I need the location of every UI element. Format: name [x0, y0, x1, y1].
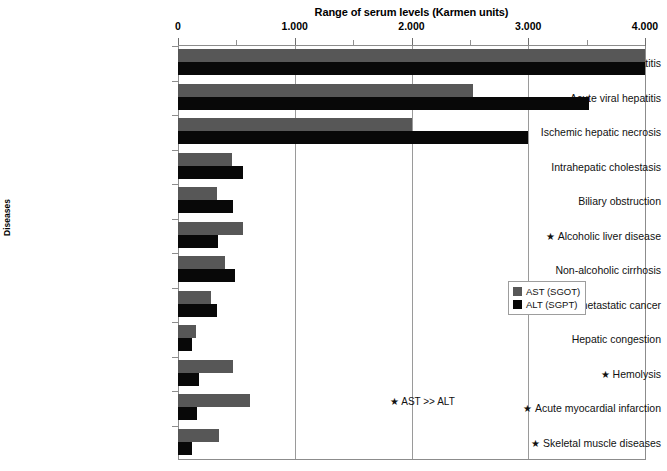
category-label-text: Alcoholic liver disease: [558, 230, 661, 242]
category-label-9: ★ Hemolysis: [491, 368, 667, 380]
alt-swatch-icon: [513, 300, 522, 309]
category-label-text: Acute myocardial infarction: [535, 402, 661, 414]
x-tick-label-3000: 3.000: [515, 20, 541, 32]
bar-ast-5: [178, 222, 243, 235]
category-label-text: Non-alcoholic cirrhosis: [555, 264, 661, 276]
ast-swatch-icon: [513, 287, 522, 296]
bar-ast-0: [178, 49, 645, 62]
bar-alt-10: [178, 407, 197, 420]
legend-label-ast: AST (SGOT): [526, 286, 580, 297]
category-label-8: Hepatic congestion: [491, 333, 667, 345]
bar-ast-9: [178, 360, 233, 373]
x-tick-label-0: 0: [175, 20, 181, 32]
bar-alt-1: [178, 97, 589, 110]
category-label-text: Ischemic hepatic necrosis: [541, 126, 661, 138]
row-tick-0: [172, 46, 178, 47]
x-tick-4000: [645, 38, 646, 46]
x-tick-label-1000: 1.000: [282, 20, 308, 32]
bar-ast-7: [178, 291, 211, 304]
row-tick-7: [172, 288, 178, 289]
star-icon: ★: [390, 396, 399, 407]
row-tick-6: [172, 253, 178, 254]
bar-ast-2: [178, 118, 412, 131]
category-label-6: Non-alcoholic cirrhosis: [491, 264, 667, 276]
bar-ast-1: [178, 84, 473, 97]
star-icon: ★: [531, 438, 543, 449]
row-tick-2: [172, 115, 178, 116]
bar-alt-7: [178, 304, 217, 317]
x-tick-label-2000: 2.000: [398, 20, 424, 32]
category-label-4: Biliary obstruction: [491, 195, 667, 207]
row-tick-11: [172, 426, 178, 427]
category-label-text: Skeletal muscle diseases: [543, 437, 661, 449]
annotation-ast-gt-alt: ★ AST >> ALT: [390, 396, 455, 407]
category-label-text: Biliary obstruction: [578, 195, 661, 207]
annotation-text: AST >> ALT: [401, 396, 455, 407]
bar-ast-11: [178, 429, 219, 442]
category-label-5: ★ Alcoholic liver disease: [491, 230, 667, 242]
bar-alt-4: [178, 200, 233, 213]
row-tick-5: [172, 219, 178, 220]
bar-ast-4: [178, 187, 217, 200]
bar-chart: Range of serum levels (Karmen units) Dis…: [0, 0, 667, 471]
category-label-11: ★ Skeletal muscle diseases: [491, 437, 667, 449]
category-label-text: Intrahepatic cholestasis: [551, 161, 661, 173]
category-label-text: Hemolysis: [613, 368, 661, 380]
gridline-4000: [645, 46, 646, 460]
bar-alt-2: [178, 131, 528, 144]
x-tick-label-4000: 4.000: [632, 20, 658, 32]
legend-item-alt: ALT (SGPT): [513, 298, 580, 311]
star-icon: ★: [546, 231, 558, 242]
bar-alt-11: [178, 442, 192, 455]
legend-item-ast: AST (SGOT): [513, 285, 580, 298]
bar-alt-3: [178, 166, 243, 179]
bar-alt-9: [178, 373, 199, 386]
bar-alt-0: [178, 62, 645, 75]
category-label-10: ★ Acute myocardial infarction: [491, 402, 667, 414]
chart-title: Range of serum levels (Karmen units): [178, 6, 645, 18]
bar-ast-8: [178, 325, 196, 338]
bar-ast-6: [178, 256, 225, 269]
bar-alt-8: [178, 338, 192, 351]
row-tick-10: [172, 391, 178, 392]
row-tick-4: [172, 184, 178, 185]
row-tick-3: [172, 150, 178, 151]
y-axis-title: Diseases: [2, 199, 12, 236]
star-icon: ★: [601, 369, 613, 380]
star-icon: ★: [523, 403, 535, 414]
bar-ast-10: [178, 394, 250, 407]
category-label-text: Hepatic congestion: [572, 333, 661, 345]
category-label-3: Intrahepatic cholestasis: [491, 161, 667, 173]
row-tick-8: [172, 322, 178, 323]
row-tick-1: [172, 81, 178, 82]
bar-alt-6: [178, 269, 235, 282]
bar-ast-3: [178, 153, 232, 166]
legend: AST (SGOT) ALT (SGPT): [508, 281, 586, 315]
row-tick-9: [172, 357, 178, 358]
bar-alt-5: [178, 235, 218, 248]
legend-label-alt: ALT (SGPT): [526, 299, 577, 310]
